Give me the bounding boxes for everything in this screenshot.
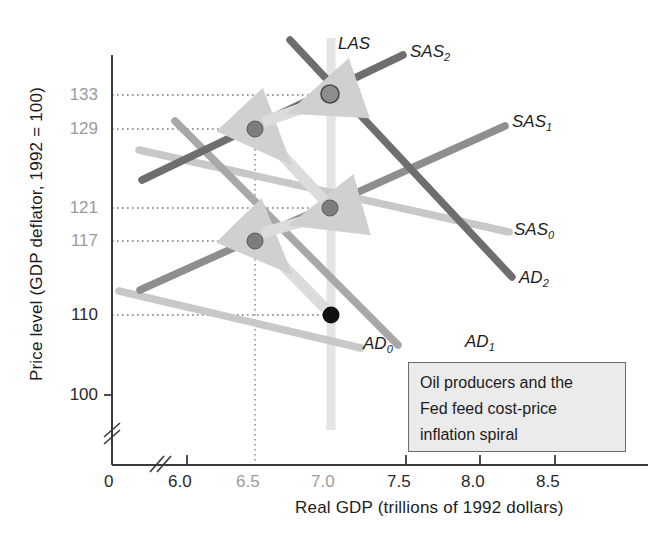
x-tick-label-7-5: 7.5 (387, 472, 411, 492)
y-tick-label-133: 133 (52, 85, 98, 105)
curve-label-sas1-sub: 1 (546, 121, 552, 133)
x-tick-label-8-5: 8.5 (536, 472, 560, 492)
x-tick-label-8-0: 8.0 (461, 472, 485, 492)
y-tick-label-121: 121 (52, 198, 98, 218)
annotation-box: Oil producers and the Fed feed cost-pric… (408, 362, 626, 452)
curve-label-ad2-base: AD (519, 268, 543, 287)
annotation-line-2: Fed feed cost-price (420, 396, 614, 422)
curve-label-sas1-base: SAS (512, 112, 546, 131)
curve-label-ad0: AD0 (363, 334, 393, 355)
x-tick-label-6-0: 6.0 (168, 472, 192, 492)
chart-canvas (0, 0, 660, 541)
curve-label-las: LAS (338, 34, 370, 54)
equilibrium-point-e0 (323, 307, 340, 324)
curve-label-ad1: AD1 (465, 332, 495, 353)
y-axis-title: Price level (GDP deflator, 1992 = 100) (27, 54, 47, 414)
curve-label-ad1-base: AD (465, 332, 489, 351)
economics-as-ad-chart: Price level (GDP deflator, 1992 = 100) R… (0, 0, 660, 541)
curve-label-ad1-sub: 1 (489, 341, 495, 353)
x-tick-label-7-0: 7.0 (311, 472, 335, 492)
x-axis-title: Real GDP (trillions of 1992 dollars) (295, 498, 564, 518)
curve-ad2 (290, 40, 512, 277)
curve-label-ad2-sub: 2 (543, 277, 549, 289)
annotation-line-3: inflation spiral (420, 422, 614, 448)
curve-label-ad2: AD2 (519, 268, 549, 289)
curve-label-sas0-sub: 0 (548, 229, 554, 241)
y-tick-label-110: 110 (52, 305, 98, 325)
arrow-e2-e3 (268, 140, 324, 200)
curve-label-sas2-base: SAS (410, 42, 444, 61)
annotation-line-1: Oil producers and the (420, 370, 614, 396)
y-tick-label-117: 117 (52, 231, 98, 251)
curve-label-ad0-sub: 0 (387, 343, 393, 355)
curve-label-sas2-sub: 2 (444, 51, 450, 63)
adjustment-arrows (262, 102, 325, 308)
x-tick-label-0: 0 (104, 472, 113, 492)
equilibrium-point-e2 (322, 200, 338, 216)
curve-label-ad0-base: AD (363, 334, 387, 353)
y-tick-label-129: 129 (52, 119, 98, 139)
curve-label-sas0-base: SAS (514, 220, 548, 239)
y-tick-label-100: 100 (52, 385, 98, 405)
equilibrium-point-e3 (247, 121, 263, 137)
curve-label-sas0: SAS0 (514, 220, 554, 241)
x-tick-label-6-5: 6.5 (236, 472, 260, 492)
equilibrium-point-e4 (321, 85, 339, 103)
curve-label-sas2: SAS2 (410, 42, 450, 63)
equilibrium-point-e1 (247, 233, 263, 249)
curve-label-sas1: SAS1 (512, 112, 552, 133)
